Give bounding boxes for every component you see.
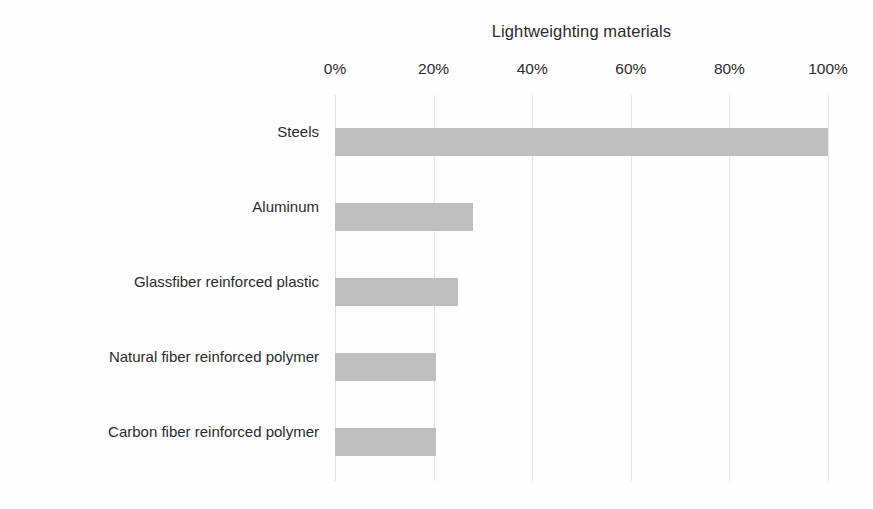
category-label-row: Steels [0, 95, 325, 170]
category-label: Glassfiber reinforced plastic [134, 274, 325, 291]
x-axis-tick-label: 20% [418, 60, 449, 78]
x-axis-tick-label: 0% [324, 60, 346, 78]
category-label-row: Natural fiber reinforced polymer [0, 320, 325, 395]
bar-row [335, 245, 828, 320]
category-label: Steels [277, 124, 325, 141]
bar-row [335, 320, 828, 395]
category-label-row: Glassfiber reinforced plastic [0, 245, 325, 320]
x-axis-tick-label: 40% [517, 60, 548, 78]
category-label-row: Aluminum [0, 170, 325, 245]
bars-layer [335, 95, 828, 481]
gridline-vertical [828, 95, 829, 481]
category-label-row: Carbon fiber reinforced polymer [0, 395, 325, 470]
x-axis-tick-label: 80% [714, 60, 745, 78]
bar[interactable] [335, 278, 458, 306]
category-label: Aluminum [252, 199, 325, 216]
category-axis-labels: SteelsAluminumGlassfiber reinforced plas… [0, 95, 325, 481]
chart-page: Lightweighting materials 0%20%40%60%80%1… [0, 0, 873, 509]
category-label: Natural fiber reinforced polymer [109, 349, 325, 366]
x-axis-tick-label: 60% [615, 60, 646, 78]
bar-row [335, 395, 828, 470]
bar[interactable] [335, 428, 436, 456]
bar-row [335, 170, 828, 245]
category-label: Carbon fiber reinforced polymer [108, 424, 325, 441]
bar[interactable] [335, 353, 436, 381]
bar[interactable] [335, 128, 828, 156]
bar[interactable] [335, 203, 473, 231]
bar-row [335, 95, 828, 170]
x-axis-tick-label: 100% [808, 60, 848, 78]
chart-title: Lightweighting materials [335, 22, 828, 41]
x-axis-tick-labels: 0%20%40%60%80%100% [335, 60, 828, 82]
